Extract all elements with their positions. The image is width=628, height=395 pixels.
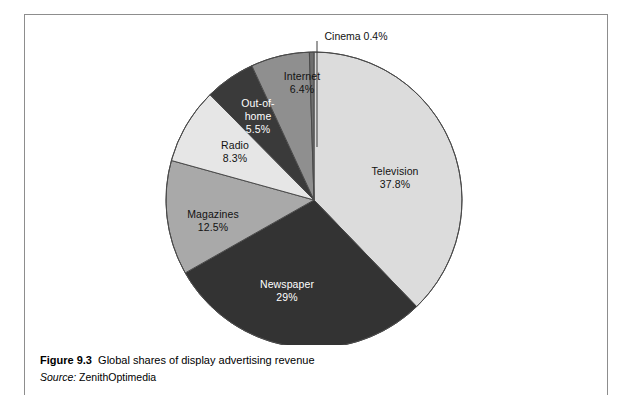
slice-callout-cinema: Cinema 0.4%	[296, 30, 416, 42]
page-canvas: Television 37.8% Newspaper 29% Magazines…	[0, 0, 628, 395]
figure-source-line: Source: ZenithOptimedia	[40, 370, 560, 385]
figure-container: Television 37.8% Newspaper 29% Magazines…	[25, 15, 607, 395]
figure-caption-title-line: Figure 9.3 Global shares of display adve…	[40, 353, 560, 369]
figure-source-label: Source:	[40, 371, 76, 383]
figure-title: Global shares of display advertising rev…	[98, 354, 314, 366]
pie-chart	[25, 15, 607, 345]
page-frame-right-rule	[607, 14, 608, 395]
figure-source-value: ZenithOptimedia	[79, 371, 156, 383]
figure-caption: Figure 9.3 Global shares of display adve…	[40, 353, 560, 385]
pie-slices	[166, 52, 462, 345]
figure-number: Figure 9.3	[40, 354, 92, 366]
